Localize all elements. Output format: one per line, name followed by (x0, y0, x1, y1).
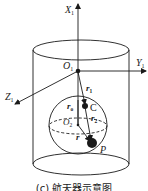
point-c-label: C (90, 102, 97, 113)
axes (15, 4, 146, 125)
r2-label: r2 (91, 113, 98, 124)
cylinder-bottom-ellipse (33, 153, 129, 175)
origin2-point (77, 124, 80, 127)
point-p (87, 138, 97, 148)
point-p-label: P (99, 144, 106, 155)
r-label: r (76, 132, 80, 142)
point-c (82, 103, 88, 109)
z1-axis (15, 71, 78, 104)
spacecraft-diagram: X1 Y1 Z1 O1 r1 ro C r2 O2 r P (c) 航天器示意图 (0, 0, 148, 191)
r1-label: r1 (86, 83, 93, 94)
cylinder-top-ellipse (33, 40, 129, 60)
cylinder (33, 40, 129, 175)
y1-axis-label: Y1 (136, 57, 145, 69)
origin1-point (76, 69, 81, 74)
origin1-label: O1 (63, 60, 73, 72)
x1-axis-label: X1 (64, 4, 74, 16)
figure-caption: (c) 航天器示意图 (36, 182, 112, 191)
r1-vector (78, 72, 85, 104)
r-vector (78, 125, 90, 141)
z1-axis-label: Z1 (5, 91, 14, 103)
r0-label: ro (67, 101, 74, 112)
